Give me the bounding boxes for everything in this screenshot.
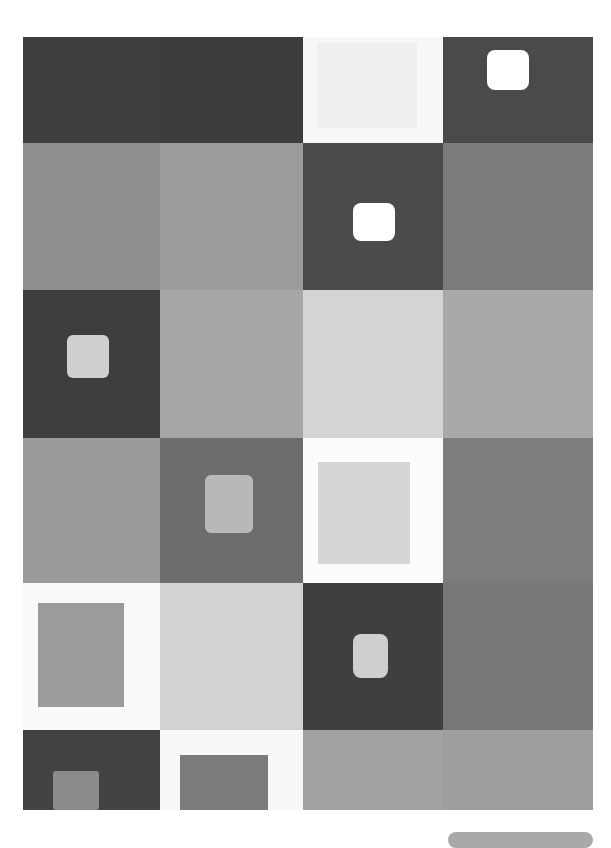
grid-square — [160, 583, 303, 730]
inset-square — [353, 634, 388, 678]
inset-square — [67, 335, 109, 378]
grid-square — [443, 583, 593, 730]
inset-square — [53, 771, 99, 810]
inset-square — [487, 50, 529, 90]
grid-square — [23, 143, 160, 290]
grid-square — [23, 290, 160, 438]
footer-bar — [448, 832, 593, 848]
grid-square — [443, 730, 593, 810]
painting-grid — [23, 37, 593, 810]
grid-square — [303, 143, 443, 290]
grid-square — [303, 583, 443, 730]
grid-square — [443, 290, 593, 438]
grid-square — [303, 438, 443, 583]
inset-square — [205, 475, 253, 533]
grid-square — [23, 730, 160, 810]
grid-square — [160, 290, 303, 438]
grid-square — [160, 438, 303, 583]
grid-square — [23, 37, 160, 143]
inset-square — [317, 43, 417, 128]
inset-square — [38, 603, 124, 707]
grid-square — [443, 37, 593, 143]
inset-square — [318, 462, 410, 564]
inset-square — [180, 755, 268, 810]
grid-square — [160, 730, 303, 810]
grid-square — [303, 730, 443, 810]
grid-square — [443, 438, 593, 583]
inset-square — [353, 203, 395, 241]
grid-square — [303, 290, 443, 438]
grid-square — [160, 143, 303, 290]
grid-square — [23, 583, 160, 730]
grid-square — [303, 37, 443, 143]
grid-square — [443, 143, 593, 290]
grid-square — [160, 37, 303, 143]
grid-square — [23, 438, 160, 583]
